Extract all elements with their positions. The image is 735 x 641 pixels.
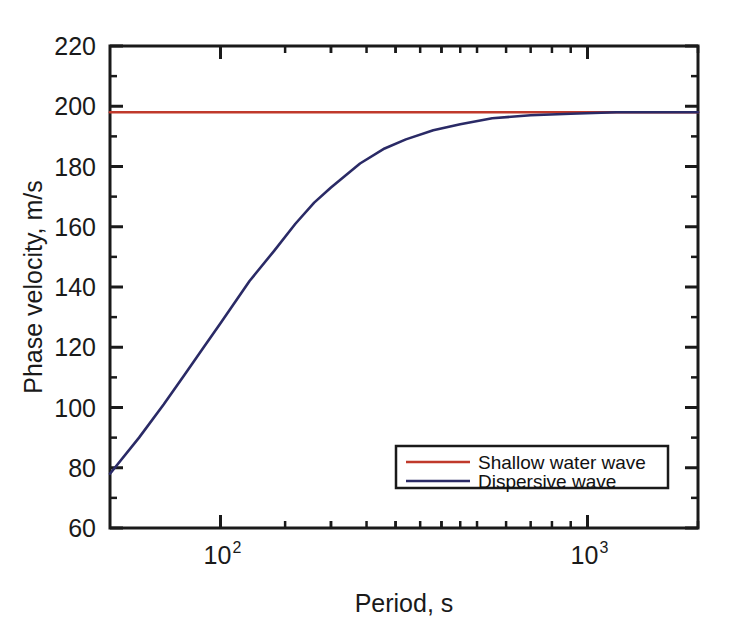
y-tick-label: 120 bbox=[54, 333, 96, 361]
x-tick-label-exponent: 2 bbox=[232, 539, 241, 556]
chart-canvas: 2202001801601401201008060 102103 Phase v… bbox=[0, 0, 735, 641]
x-tick-label-exponent: 3 bbox=[600, 539, 609, 556]
y-tick-label: 200 bbox=[54, 92, 96, 120]
chart-legend: Shallow water waveDispersive wave bbox=[396, 446, 668, 492]
y-tick-label: 220 bbox=[54, 32, 96, 60]
chart-figure: 2202001801601401201008060 102103 Phase v… bbox=[0, 0, 735, 641]
y-tick-label: 180 bbox=[54, 153, 96, 181]
x-tick-label-base: 10 bbox=[203, 541, 231, 569]
x-tick-label-base: 10 bbox=[571, 541, 599, 569]
y-tick-label: 140 bbox=[54, 273, 96, 301]
y-tick-label: 60 bbox=[68, 514, 96, 542]
y-tick-label: 100 bbox=[54, 394, 96, 422]
legend-label-1: Dispersive wave bbox=[478, 471, 616, 492]
y-tick-label: 160 bbox=[54, 213, 96, 241]
y-tick-label: 80 bbox=[68, 454, 96, 482]
y-axis-title: Phase velocity, m/s bbox=[19, 180, 47, 394]
x-axis-title: Period, s bbox=[355, 589, 454, 617]
legend-label-0: Shallow water wave bbox=[478, 452, 646, 473]
